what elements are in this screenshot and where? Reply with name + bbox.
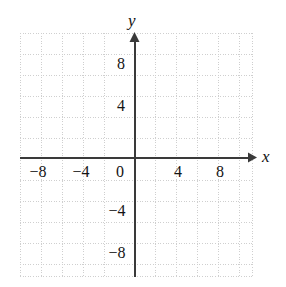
x-tick-label-8: 8 [216, 164, 224, 180]
x-axis-label: x [262, 148, 270, 165]
x-tick-label-neg4: −4 [72, 164, 89, 180]
x-tick-label-4: 4 [174, 164, 182, 180]
y-axis-label: y [128, 12, 136, 29]
coordinate-grid-svg [0, 0, 286, 287]
x-tick-label-neg8: −8 [29, 164, 46, 180]
coordinate-plane-figure: y x −8 −4 0 4 8 8 4 −4 −8 [0, 0, 286, 287]
y-tick-label-8: 8 [117, 56, 125, 72]
grid-lines [20, 33, 253, 277]
y-tick-label-neg4: −4 [108, 203, 125, 219]
y-tick-label-neg8: −8 [108, 245, 125, 261]
y-tick-label-4: 4 [117, 98, 125, 114]
x-tick-label-0: 0 [116, 164, 124, 180]
axes [20, 32, 257, 277]
